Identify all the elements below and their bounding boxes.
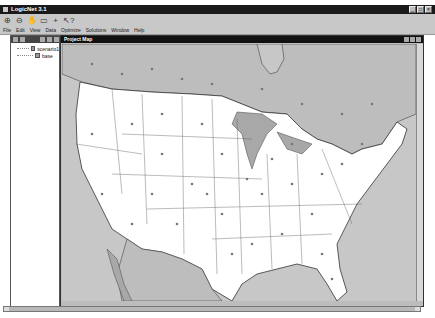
maximize-button[interactable]: □ [417, 6, 424, 13]
help-pointer-icon[interactable]: ↖? [63, 16, 72, 25]
scenario-icon [35, 53, 40, 58]
menu-window[interactable]: Window [111, 27, 129, 33]
project-map-window: Project Map [60, 35, 424, 307]
menu-edit[interactable]: Edit [16, 27, 25, 33]
tree-item-scenario1[interactable]: scenario1 [17, 45, 59, 52]
map-window-title: Project Map [64, 36, 92, 42]
panel-button[interactable] [20, 37, 25, 42]
scroll-right-arrow-icon[interactable] [415, 307, 420, 311]
map-maximize-button[interactable] [410, 37, 415, 42]
map-minimize-button[interactable] [404, 37, 409, 42]
toolbar: ⊕ ⊖ ✋ ▭ + ↖? [0, 14, 435, 26]
panel-close-button[interactable] [54, 37, 59, 42]
zoom-out-icon[interactable]: ⊖ [15, 16, 24, 25]
tree-connector [17, 48, 29, 49]
scenario-tree: scenario1 base [11, 43, 59, 59]
logicnet-app: LogicNet 3.1 _ □ × ⊕ ⊖ ✋ ▭ + ↖? File Edi… [0, 0, 435, 318]
tree-item-base[interactable]: base [17, 52, 59, 59]
add-point-icon[interactable]: + [51, 16, 60, 25]
map-vertical-scrollbar[interactable] [416, 44, 423, 301]
map-title-bar: Project Map [61, 36, 423, 43]
zoom-in-icon[interactable]: ⊕ [3, 16, 12, 25]
menu-data[interactable]: Data [45, 27, 56, 33]
window-title: LogicNet 3.1 [11, 5, 47, 14]
map-canvas[interactable] [62, 44, 416, 301]
scenario-panel-header [11, 36, 59, 43]
scroll-left-arrow-icon[interactable] [4, 307, 9, 311]
tree-connector [17, 55, 33, 56]
close-button[interactable]: × [425, 6, 432, 13]
app-icon [3, 7, 8, 12]
scenario-icon [31, 46, 35, 51]
menu-view[interactable]: View [30, 27, 41, 33]
select-rect-icon[interactable]: ▭ [39, 16, 48, 25]
menu-bar: File Edit View Data Optimize Solutions W… [0, 26, 435, 35]
menu-solutions[interactable]: Solutions [86, 27, 107, 33]
scenario-panel: scenario1 base [10, 35, 60, 307]
tree-item-label: base [42, 53, 53, 59]
panel-minimize-button[interactable] [40, 37, 45, 42]
panel-maximize-button[interactable] [47, 37, 52, 42]
north-america-map [62, 44, 416, 301]
menu-file[interactable]: File [3, 27, 11, 33]
horizontal-scrollbar[interactable] [3, 306, 421, 312]
menu-help[interactable]: Help [134, 27, 144, 33]
pan-hand-icon[interactable]: ✋ [27, 16, 36, 25]
panel-button[interactable] [13, 37, 18, 42]
tree-item-label: scenario1 [37, 46, 59, 52]
map-close-button[interactable] [416, 37, 421, 42]
title-bar: LogicNet 3.1 _ □ × [0, 5, 435, 14]
menu-optimize[interactable]: Optimize [61, 27, 81, 33]
minimize-button[interactable]: _ [409, 6, 416, 13]
